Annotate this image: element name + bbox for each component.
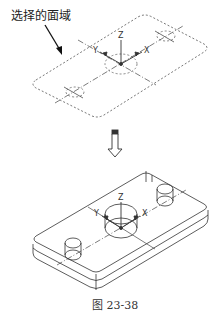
left-hole bbox=[65, 238, 81, 260]
bottom-z-axis-label: Z bbox=[118, 193, 124, 202]
down-arrow-icon bbox=[108, 130, 122, 157]
figure-caption: 图 23-38 bbox=[92, 296, 138, 312]
top-ucs-icon bbox=[100, 40, 142, 66]
top-y-axis-label: Y bbox=[92, 46, 98, 55]
bottom-x-axis-label: X bbox=[142, 209, 148, 218]
bottom-y-axis-label: Y bbox=[93, 209, 99, 218]
top-x-axis-label: X bbox=[144, 46, 150, 55]
top-z-axis-label: Z bbox=[118, 31, 124, 40]
pointer-arrow bbox=[45, 25, 62, 55]
top-left-hole-outline bbox=[66, 87, 84, 97]
solid-plate bbox=[33, 171, 208, 290]
diagram-canvas: Z Y X bbox=[0, 0, 222, 317]
bottom-ucs-icon bbox=[102, 202, 140, 230]
right-hole bbox=[157, 184, 173, 206]
